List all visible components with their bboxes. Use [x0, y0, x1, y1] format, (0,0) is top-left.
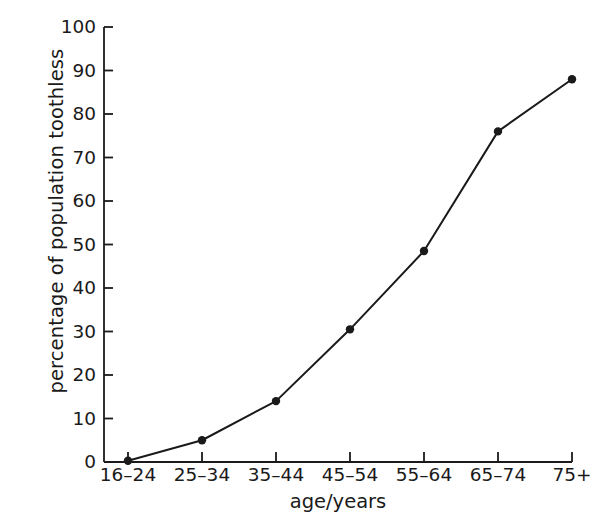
data-point [124, 456, 132, 464]
chart-figure: percentage of population toothless 100 9… [0, 0, 600, 522]
x-tick-marks [128, 452, 572, 462]
y-tick-marks [104, 27, 113, 419]
data-point [420, 247, 428, 255]
data-point [272, 397, 280, 405]
data-point [568, 75, 576, 83]
series-markers-toothless [124, 75, 576, 465]
data-point [346, 325, 354, 333]
plot-area [0, 0, 600, 522]
series-line-toothless [128, 79, 572, 460]
data-point [198, 436, 206, 444]
data-point [494, 127, 502, 135]
